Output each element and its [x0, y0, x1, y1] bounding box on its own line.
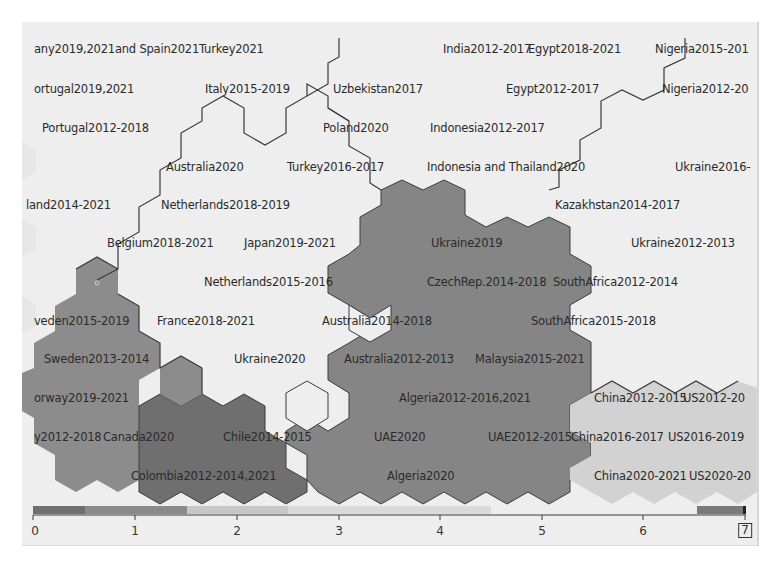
- cluster-center: [286, 180, 591, 504]
- node-label: Canada2020: [103, 430, 174, 444]
- node-label: UAE2012-2015: [488, 430, 572, 444]
- som-map-panel[interactable]: any2019,2021and Spain2021Turkey2021India…: [22, 22, 759, 546]
- legend-tick-5: 5: [538, 524, 546, 538]
- node-label: Australia2012-2013: [344, 352, 454, 366]
- background-hexes: [22, 142, 36, 334]
- node-label: Japan2019-2021: [244, 236, 336, 250]
- legend-tick-0: 0: [31, 524, 39, 538]
- node-label: France2018-2021: [157, 314, 255, 328]
- node-label: Italy2015-2019: [205, 82, 290, 96]
- node-label: Ukraine2019: [431, 236, 502, 250]
- node-label: Malaysia2015-2021: [475, 352, 585, 366]
- node-label: Nigeria2015-201: [655, 42, 749, 56]
- node-label: Netherlands2018-2019: [161, 198, 290, 212]
- node-label: veden2015-2019: [34, 314, 129, 328]
- node-label: land2014-2021: [26, 198, 111, 212]
- node-label: US2020-20: [689, 469, 751, 483]
- node-label: US2012-20: [683, 391, 745, 405]
- node-label: US2016-2019: [668, 430, 744, 444]
- node-label: Algeria2012-2016,2021: [399, 391, 531, 405]
- node-label: Ukraine2016-: [675, 160, 750, 174]
- node-label: Ukraine2012-2013: [631, 236, 735, 250]
- node-label: Australia2020: [166, 160, 244, 174]
- node-label: Egypt2012-2017: [506, 82, 599, 96]
- legend-tick-3: 3: [335, 524, 343, 538]
- node-label: China2020-2021: [594, 469, 687, 483]
- node-label: Uzbekistan2017: [333, 82, 423, 96]
- legend-tick-2: 2: [233, 524, 241, 538]
- node-label: orway2019-2021: [34, 391, 129, 405]
- node-label: Sweden2013-2014: [44, 352, 149, 366]
- node-label: UAE2020: [374, 430, 425, 444]
- legend-tick-6: 6: [639, 524, 647, 538]
- node-label: Kazakhstan2014-2017: [555, 198, 680, 212]
- node-label: Indonesia2012-2017: [430, 121, 545, 135]
- node-label: y2012-2018: [34, 430, 102, 444]
- node-label: Netherlands2015-2016: [204, 275, 333, 289]
- node-label: Portugal2012-2018: [42, 121, 149, 135]
- legend-tick-7-selected[interactable]: 7: [738, 523, 752, 538]
- node-label: Ukraine2020: [234, 352, 305, 366]
- node-label: Poland2020: [323, 121, 389, 135]
- node-label: Chile2014-2015: [223, 430, 312, 444]
- node-label: India2012-2017: [443, 42, 531, 56]
- node-label: China2016-2017: [571, 430, 664, 444]
- node-label: Nigeria2012-20: [662, 82, 748, 96]
- node-label: Australia2014-2018: [322, 314, 432, 328]
- node-label: Indonesia and Thailand2020: [427, 160, 585, 174]
- legend-tick-4: 4: [436, 524, 444, 538]
- node-label: CzechRep.2014-2018: [427, 275, 546, 289]
- legend-tick-1: 1: [131, 524, 139, 538]
- node-label: Belgium2018-2021: [107, 236, 214, 250]
- node-label: ortugal2019,2021: [34, 82, 134, 96]
- cluster-dark: [139, 394, 307, 504]
- legend-color-bar[interactable]: [33, 506, 746, 520]
- node-label: Colombia2012-2014,2021: [131, 469, 276, 483]
- node-label: any2019,2021and Spain2021Turkey2021: [34, 42, 264, 56]
- node-label: China2012-2015: [594, 391, 687, 405]
- node-label: Algeria2020: [387, 469, 454, 483]
- node-label: SouthAfrica2015-2018: [531, 314, 656, 328]
- node-label: SouthAfrica2012-2014: [553, 275, 678, 289]
- node-label: Egypt2018-2021: [528, 42, 621, 56]
- node-label: Turkey2016-2017: [287, 160, 384, 174]
